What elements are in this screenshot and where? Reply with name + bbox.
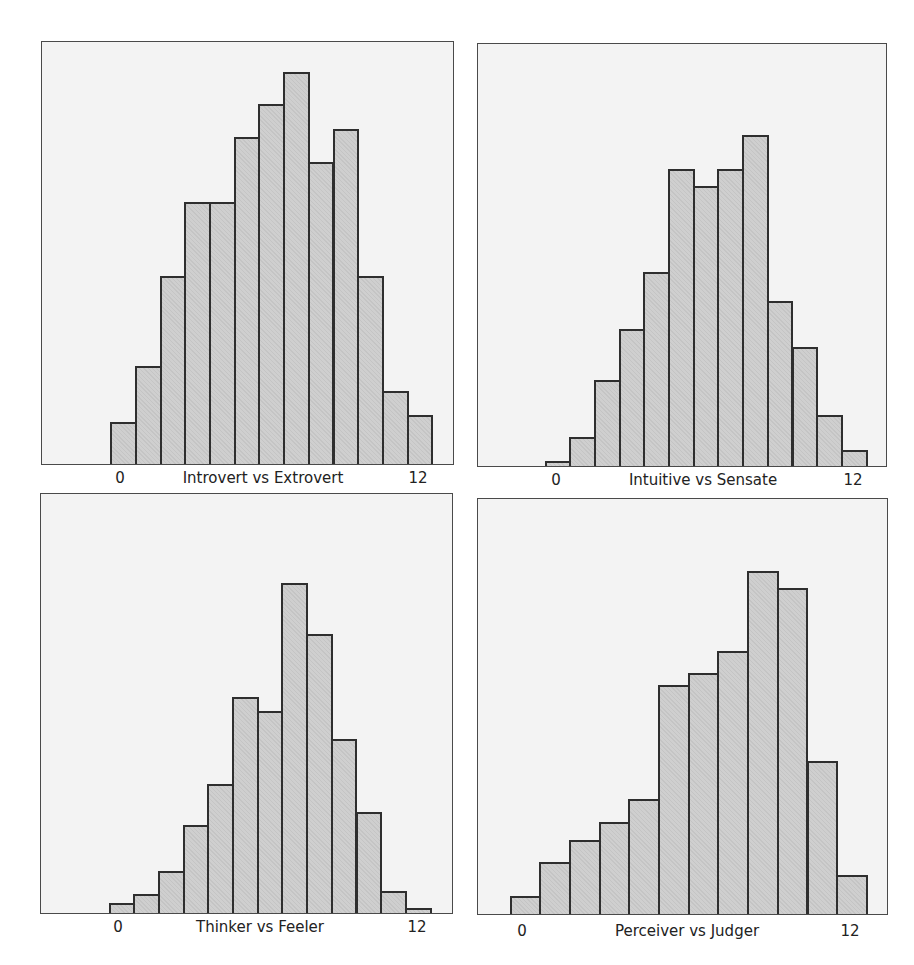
histogram-bar — [688, 673, 720, 914]
histogram-bar — [658, 685, 690, 914]
histogram-bar — [110, 422, 137, 464]
histogram-bar — [668, 169, 695, 466]
histogram-bar — [792, 347, 819, 466]
histogram-bar — [841, 450, 868, 466]
histogram-bar — [331, 739, 358, 913]
histogram-bar — [569, 840, 601, 914]
x-tick-0: 0 — [551, 471, 561, 489]
histogram-bar — [619, 329, 646, 466]
histogram-bar — [283, 72, 310, 464]
histogram-bar — [836, 875, 868, 914]
x-axis-label: Introvert vs Extrovert — [183, 469, 344, 487]
x-axis-label: Thinker vs Feeler — [196, 918, 324, 936]
x-tick-12: 12 — [407, 918, 426, 936]
histogram-bar — [333, 129, 360, 464]
x-tick-0: 0 — [113, 918, 123, 936]
histogram-bar — [407, 415, 434, 464]
x-axis-label: Intuitive vs Sensate — [629, 471, 777, 489]
x-tick-12: 12 — [843, 471, 862, 489]
histogram-bar — [306, 634, 333, 913]
histogram-bar — [777, 588, 809, 914]
histogram-bar — [209, 202, 236, 464]
histogram-bar — [183, 825, 210, 913]
histogram-bar — [133, 894, 160, 913]
plot-area — [477, 498, 888, 915]
histogram-bar — [109, 903, 136, 913]
histogram-bar — [693, 186, 720, 466]
histogram-bar — [510, 896, 542, 914]
histogram-bar — [382, 391, 409, 464]
histogram-bar — [234, 137, 261, 464]
histogram-bar — [539, 862, 571, 914]
histogram-bar — [742, 135, 769, 466]
histogram-bar — [717, 651, 749, 914]
x-tick-12: 12 — [408, 469, 427, 487]
x-tick-0: 0 — [115, 469, 125, 487]
x-tick-12: 12 — [840, 922, 859, 940]
histogram-bar — [545, 461, 572, 466]
histogram-bar — [599, 822, 631, 914]
histogram-bar — [628, 799, 660, 914]
histogram-bar — [767, 301, 794, 466]
histogram-bar — [135, 366, 162, 464]
plot-area — [41, 41, 454, 465]
plot-area — [477, 43, 887, 467]
histogram-bar — [207, 784, 234, 913]
histogram-bar — [257, 711, 284, 913]
histogram-bar — [160, 276, 187, 464]
histogram-bar — [158, 871, 185, 913]
histogram-bar — [356, 812, 383, 913]
histogram-bar — [258, 104, 285, 464]
histogram-bar — [717, 169, 744, 466]
histogram-bar — [357, 276, 384, 464]
histogram-bar — [308, 162, 335, 464]
histogram-bar — [807, 761, 839, 914]
histogram-bar — [405, 908, 432, 913]
histogram-bar — [232, 697, 259, 913]
histogram-bar — [747, 571, 779, 914]
histogram-bar — [184, 202, 211, 464]
plot-area — [40, 493, 453, 914]
histogram-bar — [594, 380, 621, 466]
histogram-bar — [380, 891, 407, 913]
x-tick-0: 0 — [517, 922, 527, 940]
histogram-bar — [569, 437, 596, 466]
histogram-bar — [816, 415, 843, 466]
x-axis-label: Perceiver vs Judger — [615, 922, 759, 940]
histogram-bar — [643, 272, 670, 466]
histogram-bar — [281, 583, 308, 913]
